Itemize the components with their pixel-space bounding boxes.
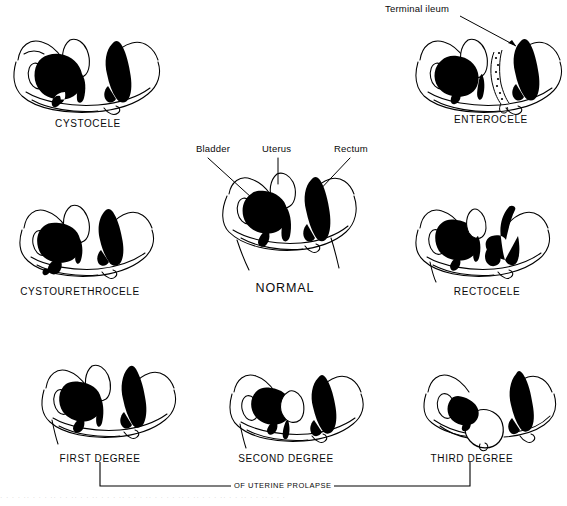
panel-label-normal: NORMAL <box>238 281 332 295</box>
panel-cystourethrocele <box>14 196 164 282</box>
panel-rectocele <box>410 196 560 282</box>
panel-second-degree <box>222 364 372 450</box>
panel-label-cystourethrocele: CYSTOURETHROCELE <box>6 286 154 297</box>
panel-third-degree <box>420 362 560 452</box>
panel-label-rectocele: RECTOCELE <box>424 286 550 297</box>
bracket-caption: OF UTERINE PROLAPSE <box>231 481 334 490</box>
panel-cystocele <box>8 30 168 120</box>
leaders-normal <box>190 154 380 214</box>
scan-artifact-text: · · · · ·· · · · ·· · · ·· · · ·· · · · … <box>0 494 567 506</box>
panel-first-degree <box>36 358 186 444</box>
leader-terminal-ileum <box>458 10 528 52</box>
callout-rectum: Rectum <box>334 143 368 154</box>
panel-label-cystocele: CYSTOCELE <box>26 118 150 129</box>
callout-bladder: Bladder <box>196 143 230 154</box>
callout-terminal-ileum: Terminal ileum <box>385 3 449 14</box>
prolapse-figure: CYSTOCELE <box>0 0 567 506</box>
panel-label-enterocele: ENTEROCELE <box>432 114 550 125</box>
callout-uterus: Uterus <box>262 143 291 154</box>
